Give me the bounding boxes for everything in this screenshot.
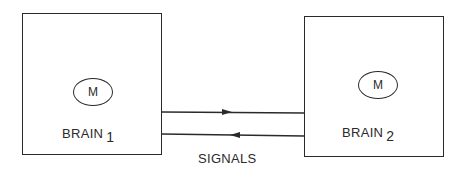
arrow-brain1-to-brain2 <box>162 109 304 115</box>
signals-label: SIGNALS <box>198 151 256 166</box>
signal-arrows <box>0 0 462 174</box>
arrow-brain2-to-brain1 <box>162 132 304 138</box>
arrowhead-right-icon <box>222 109 232 115</box>
arrowhead-left-icon <box>230 132 240 138</box>
